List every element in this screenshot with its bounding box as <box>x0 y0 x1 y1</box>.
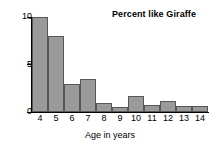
x-tick-label: 14 <box>192 114 208 123</box>
bar <box>144 105 160 112</box>
bar <box>176 106 192 112</box>
bar <box>96 103 112 113</box>
x-axis-ticks: 4567891011121314 <box>32 114 208 128</box>
x-tick-label: 4 <box>32 114 48 123</box>
y-axis-ticks: 0510 <box>0 0 32 150</box>
x-tick-label: 5 <box>48 114 64 123</box>
bar <box>32 17 48 112</box>
x-tick-label: 10 <box>128 114 144 123</box>
x-tick-label: 11 <box>144 114 160 123</box>
x-tick-label: 9 <box>112 114 128 123</box>
x-tick-label: 7 <box>80 114 96 123</box>
x-tick-label: 13 <box>176 114 192 123</box>
bar <box>128 96 144 112</box>
bar <box>112 107 128 112</box>
bar <box>192 106 208 112</box>
y-tick-label: 0 <box>10 107 32 116</box>
bar <box>80 79 96 112</box>
bar <box>48 36 64 112</box>
x-tick-label: 6 <box>64 114 80 123</box>
bar-series <box>32 17 208 112</box>
x-tick-label: 12 <box>160 114 176 123</box>
x-axis-title: Age in years <box>0 130 220 140</box>
x-tick-label: 8 <box>96 114 112 123</box>
bar <box>64 84 80 113</box>
y-tick-label: 10 <box>10 12 32 21</box>
bar <box>160 101 176 112</box>
chart-figure: Percent like Giraffe 0510 45678910111213… <box>0 0 220 150</box>
y-tick-label: 5 <box>10 60 32 69</box>
